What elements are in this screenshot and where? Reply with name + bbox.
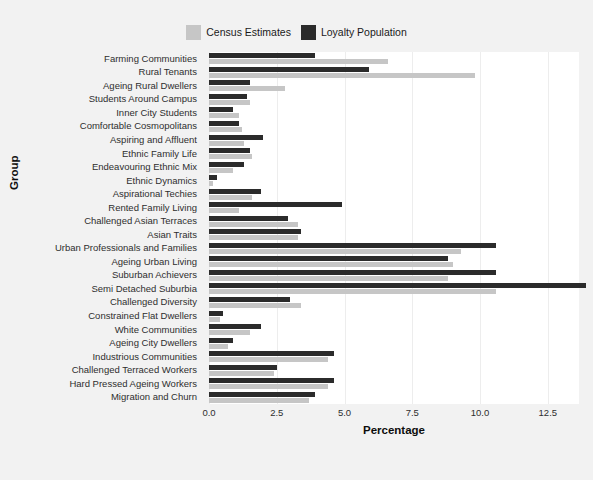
x-axis-tick-label: 10.0 <box>471 407 490 419</box>
bar-group[interactable] <box>209 107 579 118</box>
bar-loyalty-population[interactable] <box>209 67 369 72</box>
bar-group[interactable] <box>209 311 579 322</box>
x-axis-tick-label: 2.5 <box>270 407 283 419</box>
y-axis-tick-label: Aspiring and Affluent <box>110 135 197 145</box>
bar-group[interactable] <box>209 324 579 335</box>
y-axis-tick-labels: Farming CommunitiesRural TenantsAgeing R… <box>0 52 203 404</box>
bar-loyalty-population[interactable] <box>209 297 290 302</box>
bar-census-estimates[interactable] <box>209 222 298 227</box>
bar-loyalty-population[interactable] <box>209 162 244 167</box>
bar-loyalty-population[interactable] <box>209 94 247 99</box>
bar-loyalty-population[interactable] <box>209 80 250 85</box>
bar-group[interactable] <box>209 338 579 349</box>
bar-census-estimates[interactable] <box>209 59 388 64</box>
y-axis-tick-label: Ageing Rural Dwellers <box>103 81 197 91</box>
bar-loyalty-population[interactable] <box>209 175 217 180</box>
bar-loyalty-population[interactable] <box>209 243 496 248</box>
bar-census-estimates[interactable] <box>209 344 228 349</box>
legend-item[interactable]: Census Estimates <box>186 25 291 40</box>
bar-group[interactable] <box>209 365 579 376</box>
bar-loyalty-population[interactable] <box>209 135 263 140</box>
bar-group[interactable] <box>209 351 579 362</box>
bar-census-estimates[interactable] <box>209 289 496 294</box>
chart-legend: Census EstimatesLoyalty Population <box>0 24 593 40</box>
bar-group[interactable] <box>209 202 579 213</box>
x-axis-tick-labels: 0.02.55.07.510.012.5 <box>209 407 579 421</box>
bar-loyalty-population[interactable] <box>209 121 239 126</box>
legend-item[interactable]: Loyalty Population <box>301 25 407 40</box>
bar-census-estimates[interactable] <box>209 303 301 308</box>
bar-census-estimates[interactable] <box>209 181 213 186</box>
y-axis-tick-label: Farming Communities <box>104 54 197 64</box>
bar-group[interactable] <box>209 256 579 267</box>
bar-group[interactable] <box>209 175 579 186</box>
bar-loyalty-population[interactable] <box>209 229 301 234</box>
bar-census-estimates[interactable] <box>209 317 220 322</box>
bar-census-estimates[interactable] <box>209 195 252 200</box>
bar-census-estimates[interactable] <box>209 249 461 254</box>
bar-loyalty-population[interactable] <box>209 270 496 275</box>
bar-group[interactable] <box>209 148 579 159</box>
bar-group[interactable] <box>209 135 579 146</box>
bar-census-estimates[interactable] <box>209 276 448 281</box>
bar-loyalty-population[interactable] <box>209 311 223 316</box>
bar-loyalty-population[interactable] <box>209 392 315 397</box>
bar-loyalty-population[interactable] <box>209 107 233 112</box>
bar-census-estimates[interactable] <box>209 398 309 403</box>
bar-group[interactable] <box>209 121 579 132</box>
y-axis-tick-label: Challenged Asian Terraces <box>84 216 197 226</box>
bar-group[interactable] <box>209 392 579 403</box>
y-axis-tick-label: Constrained Flat Dwellers <box>88 311 197 321</box>
bar-loyalty-population[interactable] <box>209 378 334 383</box>
y-axis-tick-label: Hard Pressed Ageing Workers <box>69 379 197 389</box>
bar-loyalty-population[interactable] <box>209 365 277 370</box>
bar-census-estimates[interactable] <box>209 100 250 105</box>
bar-census-estimates[interactable] <box>209 371 274 376</box>
bar-census-estimates[interactable] <box>209 73 475 78</box>
y-axis-tick-label: Inner City Students <box>116 108 197 118</box>
plot-area <box>209 52 579 404</box>
bar-loyalty-population[interactable] <box>209 256 448 261</box>
bar-loyalty-population[interactable] <box>209 216 288 221</box>
bar-loyalty-population[interactable] <box>209 202 342 207</box>
bar-group[interactable] <box>209 378 579 389</box>
bar-census-estimates[interactable] <box>209 262 453 267</box>
bar-group[interactable] <box>209 270 579 281</box>
bar-census-estimates[interactable] <box>209 208 239 213</box>
bar-census-estimates[interactable] <box>209 357 328 362</box>
bar-group[interactable] <box>209 216 579 227</box>
bar-census-estimates[interactable] <box>209 127 242 132</box>
bar-census-estimates[interactable] <box>209 330 250 335</box>
bar-loyalty-population[interactable] <box>209 283 586 288</box>
bar-group[interactable] <box>209 80 579 91</box>
bar-census-estimates[interactable] <box>209 113 239 118</box>
bar-group[interactable] <box>209 229 579 240</box>
bar-group[interactable] <box>209 53 579 64</box>
y-axis-tick-label: Comfortable Cosmopolitans <box>80 121 197 131</box>
y-axis-tick-label: Aspirational Techies <box>113 189 197 199</box>
bar-census-estimates[interactable] <box>209 235 298 240</box>
bar-group[interactable] <box>209 67 579 78</box>
bar-group[interactable] <box>209 189 579 200</box>
x-axis-tick-label: 0.0 <box>202 407 215 419</box>
bar-loyalty-population[interactable] <box>209 351 334 356</box>
y-axis-tick-label: Ethnic Family Life <box>122 149 197 159</box>
bar-census-estimates[interactable] <box>209 168 233 173</box>
bar-census-estimates[interactable] <box>209 384 328 389</box>
bar-loyalty-population[interactable] <box>209 338 233 343</box>
bar-group[interactable] <box>209 94 579 105</box>
bar-group[interactable] <box>209 297 579 308</box>
bar-group[interactable] <box>209 243 579 254</box>
bar-loyalty-population[interactable] <box>209 53 315 58</box>
bar-loyalty-population[interactable] <box>209 189 261 194</box>
bar-group[interactable] <box>209 162 579 173</box>
bar-loyalty-population[interactable] <box>209 148 250 153</box>
legend-label: Loyalty Population <box>321 27 407 38</box>
bar-loyalty-population[interactable] <box>209 324 261 329</box>
bar-group[interactable] <box>209 283 579 294</box>
bar-census-estimates[interactable] <box>209 154 252 159</box>
bar-census-estimates[interactable] <box>209 141 244 146</box>
legend-swatch-icon <box>186 25 201 40</box>
bar-census-estimates[interactable] <box>209 86 285 91</box>
y-axis-tick-label: White Communities <box>115 325 197 335</box>
